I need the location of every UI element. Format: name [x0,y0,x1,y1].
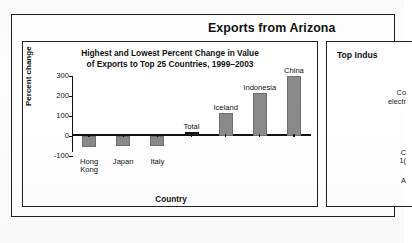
y-tick-mark [69,76,73,77]
x-tick-mark [225,134,226,137]
y-tick-label-0: 0 [39,132,69,140]
bar-china [287,76,301,136]
plot-area: Percent change 3002001000-100 HongKongJa… [23,72,319,208]
x-category-label-italy: Italy [135,158,179,166]
x-axis-title: Country [23,195,319,204]
bar-indonesia [253,93,267,136]
top-industries-line-2: electr [388,97,406,106]
bar-value-label-china: China [264,66,324,75]
top-industries-line-4: 1( [399,156,406,165]
x-tick-mark [259,134,260,137]
y-tick-label-100: 100 [39,112,69,120]
x-tick-mark [191,134,192,137]
y-tick-mark [69,96,73,97]
bar-value-label-total: Total [162,122,222,131]
top-industries-title: Top Indus [337,50,377,60]
chart-title-line-1: Highest and Lowest Percent Change in Val… [23,48,317,59]
bar-series: HongKongJapanItalyTotalIcelandIndonesiaC… [72,72,311,172]
x-tick-mark [293,134,294,137]
page-title: Exports from Arizona [208,19,408,37]
y-tick-mark [69,116,73,117]
x-tick-mark [157,134,158,137]
bar-japan [116,136,130,146]
chart-panel: Highest and Lowest Percent Change in Val… [22,41,318,207]
y-tick-label-300: 300 [39,72,69,80]
y-tick-label--100: -100 [39,152,69,160]
bar-italy [150,136,164,146]
top-industries-line-5: A [401,176,406,185]
y-tick-label-200: 200 [39,92,69,100]
y-tick-mark [69,136,73,137]
y-axis-tick-labels: 3002001000-100 [39,72,69,152]
x-tick-mark [88,134,89,137]
bar-iceland [219,113,233,136]
x-tick-mark [123,134,124,137]
y-axis-title: Percent change [24,46,33,106]
bar-hong-kong [82,136,96,147]
bar-value-label-iceland: Iceland [196,103,256,112]
top-industries-line-1: Co [397,88,406,97]
document-frame: Exports from Arizona Highest and Lowest … [11,14,395,217]
top-industries-panel: Top Indus Co electr C 1( A [326,41,412,207]
y-tick-mark [69,156,73,157]
bar-value-label-indonesia: Indonesia [230,83,290,92]
